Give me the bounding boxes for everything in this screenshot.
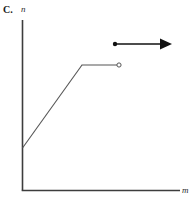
arrow-annotation xyxy=(113,39,172,50)
open-endpoint-marker xyxy=(117,63,121,67)
axes-group xyxy=(22,20,180,191)
figure-panel: C. n m xyxy=(0,0,193,203)
data-series-piecewise xyxy=(23,63,122,148)
segment-rising-linear xyxy=(23,65,83,148)
arrow-head-icon xyxy=(160,39,172,50)
plot-canvas xyxy=(0,0,193,203)
